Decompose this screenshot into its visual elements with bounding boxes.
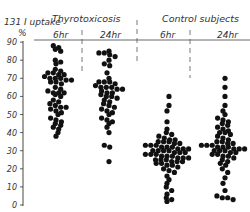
data-dot: [154, 152, 159, 157]
data-dot: [175, 159, 180, 164]
data-dot: [106, 58, 111, 63]
data-dot: [222, 130, 227, 135]
data-dot: [177, 150, 182, 155]
data-dot: [53, 47, 58, 52]
data-dot: [64, 105, 69, 110]
data-dot: [45, 88, 50, 93]
data-dot: [53, 85, 58, 90]
data-dot: [180, 159, 185, 164]
data-dot: [166, 103, 171, 108]
data-dot: [106, 103, 111, 108]
data-dot: [143, 152, 148, 157]
data-dot: [170, 163, 175, 168]
data-dot: [53, 103, 58, 108]
data-dot: [106, 130, 111, 135]
data-dot: [214, 139, 219, 144]
data-dot: [231, 141, 236, 146]
data-dot: [175, 164, 180, 169]
data-dot: [166, 94, 171, 99]
sublabel-control-6hr: 6hr: [160, 30, 176, 40]
data-dot: [55, 112, 60, 117]
data-dot: [164, 157, 169, 162]
data-dot: [164, 199, 169, 204]
y-tick-label: 0: [12, 201, 17, 210]
data-dot: [47, 101, 52, 106]
data-dot: [99, 106, 104, 111]
data-dot: [112, 105, 117, 110]
data-dot: [215, 116, 220, 121]
data-dot: [222, 94, 227, 99]
data-dot: [58, 94, 63, 99]
y-tick-label: 30: [7, 147, 17, 156]
data-dot: [222, 103, 227, 108]
data-dot: [218, 161, 223, 166]
data-dot: [225, 123, 230, 128]
data-dot: [53, 134, 58, 139]
data-dot: [225, 170, 230, 175]
data-dot: [104, 70, 109, 75]
data-dot: [109, 85, 114, 90]
y-tick-label: 20: [7, 165, 17, 174]
data-dot: [169, 188, 174, 193]
data-dot: [102, 143, 107, 148]
data-dot: [69, 78, 74, 83]
data-dot: [109, 94, 114, 99]
data-dot: [183, 150, 188, 155]
data-dot: [164, 130, 169, 135]
data-dot: [48, 106, 53, 111]
data-dot: [101, 101, 106, 106]
data-dot: [222, 148, 227, 153]
data-dot: [222, 85, 227, 90]
data-dot: [120, 87, 125, 92]
data-dot: [231, 155, 236, 160]
data-dot: [154, 161, 159, 166]
data-dot: [93, 83, 98, 88]
data-dot: [215, 125, 220, 130]
data-dot: [166, 139, 171, 144]
data-dot: [106, 159, 111, 164]
data-dot: [104, 85, 109, 90]
y-axis-ticks: 0102030405060708090: [7, 38, 23, 210]
data-dot: [169, 132, 174, 137]
data-dot: [59, 81, 64, 86]
data-dot: [161, 148, 166, 153]
data-dot: [220, 139, 225, 144]
y-tick-label: 70: [7, 74, 17, 83]
data-dot: [159, 161, 164, 166]
data-dot: [102, 50, 107, 55]
y-tick-label: 90: [7, 38, 17, 47]
data-dot: [98, 92, 103, 97]
data-dot: [220, 181, 225, 186]
data-dot: [210, 143, 215, 148]
data-dot: [215, 134, 220, 139]
group-label-thyrotoxicosis: Thyrotoxicosis: [52, 13, 121, 24]
data-dot: [58, 49, 63, 54]
data-dot: [115, 87, 120, 92]
data-dot: [48, 116, 53, 121]
data-dot: [199, 143, 204, 148]
data-dot: [242, 146, 247, 151]
data-dot: [166, 168, 171, 173]
data-dot: [164, 184, 169, 189]
data-dot: [113, 54, 118, 59]
data-dot: [170, 154, 175, 159]
data-dot: [220, 195, 225, 200]
data-dot: [228, 132, 233, 137]
data-dot: [58, 59, 63, 64]
y-axis-unit: %: [18, 28, 27, 38]
data-dot: [102, 79, 107, 84]
data-dot: [115, 96, 120, 101]
y-tick-label: 80: [7, 56, 17, 65]
data-dot: [166, 148, 171, 153]
data-dot: [220, 121, 225, 126]
sublabel-control-24hr: 24hr: [217, 30, 239, 40]
data-dot: [222, 188, 227, 193]
data-dot: [220, 166, 225, 171]
data-dot: [169, 197, 174, 202]
data-dot: [51, 70, 56, 75]
data-dot: [107, 79, 112, 84]
data-dots: [42, 43, 247, 204]
data-dot: [107, 52, 112, 57]
group-label-control: Control subjects: [162, 13, 239, 24]
data-dot: [51, 125, 56, 130]
